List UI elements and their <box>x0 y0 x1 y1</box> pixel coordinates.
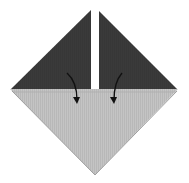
origami-diagram <box>0 0 189 183</box>
